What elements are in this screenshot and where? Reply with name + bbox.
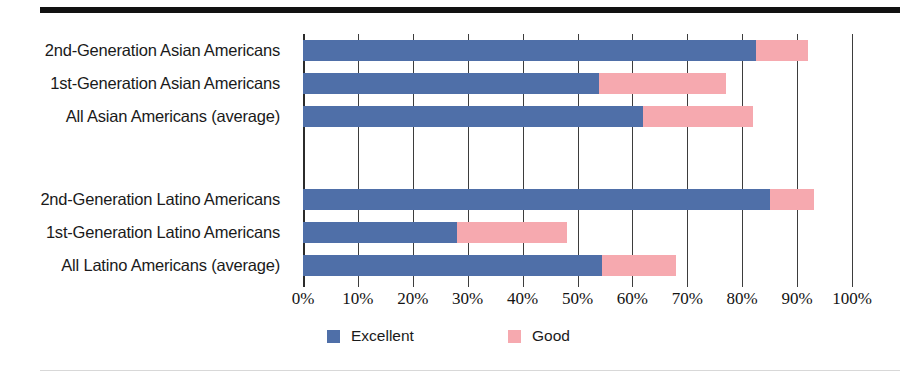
legend-label: Excellent xyxy=(351,327,414,345)
category-label: 1st-Generation Latino Americans xyxy=(46,222,280,243)
x-tick-label: 60% xyxy=(617,289,648,309)
x-tick-label: 40% xyxy=(507,289,538,309)
x-tick-label: 90% xyxy=(782,289,813,309)
x-tick-label: 10% xyxy=(342,289,373,309)
bar-segment-excellent xyxy=(303,106,643,127)
gridline-100% xyxy=(852,34,853,287)
x-tick-label: 100% xyxy=(832,289,872,309)
top-rule xyxy=(40,7,900,13)
legend-swatch-icon xyxy=(508,330,521,343)
legend-label: Good xyxy=(532,327,570,345)
category-label: 2nd-Generation Asian Americans xyxy=(45,40,280,61)
category-label: All Latino Americans (average) xyxy=(61,255,280,276)
category-label: 2nd-Generation Latino Americans xyxy=(40,189,280,210)
bar-row xyxy=(303,255,852,276)
category-label: All Asian Americans (average) xyxy=(66,106,280,127)
bar-row xyxy=(303,40,852,61)
bar-segment-excellent xyxy=(303,189,770,210)
bar-segment-excellent xyxy=(303,73,599,94)
bar-row xyxy=(303,222,852,243)
bar-segment-good xyxy=(770,189,814,210)
x-tick-label: 20% xyxy=(397,289,428,309)
category-axis-labels: 2nd-Generation Asian Americans1st-Genera… xyxy=(0,34,292,287)
bottom-rule xyxy=(40,370,900,371)
bar-row xyxy=(303,189,852,210)
x-tick-label: 80% xyxy=(727,289,758,309)
x-tick-label: 0% xyxy=(292,289,315,309)
chart-legend: ExcellentGood xyxy=(303,326,703,348)
bar-segment-good xyxy=(602,255,676,276)
bar-segment-excellent xyxy=(303,222,457,243)
bar-row xyxy=(303,73,852,94)
x-tick-label: 30% xyxy=(452,289,483,309)
bar-segment-good xyxy=(599,73,725,94)
x-tick-label: 50% xyxy=(562,289,593,309)
plot-area xyxy=(303,34,852,287)
legend-item-excellent[interactable]: Excellent xyxy=(327,326,414,346)
chart-figure: 2nd-Generation Asian Americans1st-Genera… xyxy=(0,0,915,378)
bar-segment-good xyxy=(457,222,567,243)
bar-series-group xyxy=(303,34,852,287)
legend-swatch-icon xyxy=(327,330,340,343)
bar-segment-good xyxy=(643,106,753,127)
legend-item-good[interactable]: Good xyxy=(508,326,570,346)
bar-segment-good xyxy=(756,40,808,61)
x-tick-label: 70% xyxy=(672,289,703,309)
x-axis-tick-labels: 0%10%20%30%40%50%60%70%80%90%100% xyxy=(303,289,852,313)
bar-segment-excellent xyxy=(303,40,756,61)
category-label: 1st-Generation Asian Americans xyxy=(50,73,280,94)
bar-segment-excellent xyxy=(303,255,602,276)
bar-row xyxy=(303,106,852,127)
